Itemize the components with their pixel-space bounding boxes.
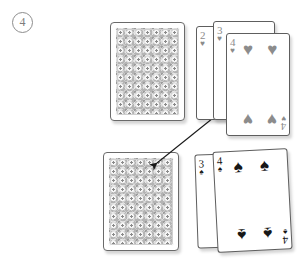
spade-pip: ♠ xyxy=(260,156,270,173)
card-4-hearts[interactable]: 4 ♥ ♥ ♥ ♥ ♥ 4 ♥ xyxy=(226,33,290,136)
spade-pip: ♠ xyxy=(263,225,273,242)
figure-canvas: 4 2 ♥ 3 ♥ 4 ♥ ♥ ♥ ♥ ♥ xyxy=(0,0,306,269)
spade-suit-icon: ♠ xyxy=(283,227,288,235)
card-back-pattern xyxy=(108,157,174,246)
card-back-pattern xyxy=(115,27,180,116)
spade-pip: ♠ xyxy=(233,158,243,175)
card-pip-area: ♥ ♥ ♥ ♥ xyxy=(227,34,289,135)
spade-suit-icon: ♠ xyxy=(199,168,204,176)
card-index-top-left: 3 ♠ xyxy=(199,158,205,176)
heart-suit-icon: ♥ xyxy=(200,40,205,48)
spade-pip: ♠ xyxy=(237,226,247,243)
card-pip-area: ♠ ♠ ♠ ♠ xyxy=(213,149,291,252)
circled-step-number: 4 xyxy=(12,12,33,33)
card-index-top-left: 2 ♥ xyxy=(200,30,205,48)
card-4-spades[interactable]: 4 ♠ ♠ ♠ ♠ ♠ 4 ♠ xyxy=(212,148,292,253)
heart-pip: ♥ xyxy=(243,110,253,127)
heart-pip: ♥ xyxy=(243,41,253,58)
card-index-bottom-right: 4 ♥ xyxy=(281,114,286,132)
card-index-top-left: 3 ♥ xyxy=(217,25,222,43)
card-back-lower[interactable] xyxy=(103,152,179,251)
heart-pip: ♥ xyxy=(267,110,277,127)
card-back-upper[interactable] xyxy=(110,22,185,121)
heart-pip: ♥ xyxy=(267,41,277,58)
heart-suit-icon: ♥ xyxy=(281,114,286,122)
heart-suit-icon: ♥ xyxy=(217,35,222,43)
card-index-bottom-right: 4 ♠ xyxy=(282,227,288,245)
